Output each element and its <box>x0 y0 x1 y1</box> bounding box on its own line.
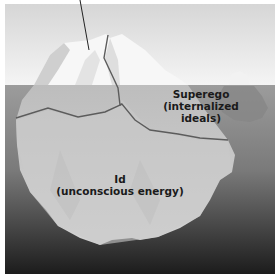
id-desc: (unconscious energy) <box>40 185 200 197</box>
id-title: Id <box>40 173 200 185</box>
iceberg-diagram <box>0 0 277 277</box>
superego-desc-1: (internalized <box>151 100 251 112</box>
superego-desc-2: ideals) <box>151 112 251 124</box>
id-label: Id (unconscious energy) <box>40 173 200 197</box>
superego-title: Superego <box>151 88 251 100</box>
superego-label: Superego (internalized ideals) <box>151 88 251 124</box>
